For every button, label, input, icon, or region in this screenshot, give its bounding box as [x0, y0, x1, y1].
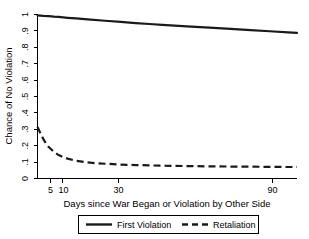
y-axis-title: Chance of No Violation	[3, 48, 14, 145]
y-tick-label: .9	[20, 27, 30, 35]
y-tick-label: 1	[20, 12, 30, 17]
y-tick-label: .6	[20, 76, 30, 84]
series-line-first-violation	[38, 15, 298, 33]
y-tick-label: 0	[20, 176, 30, 181]
y-tick-label: .1	[20, 158, 30, 166]
y-tick-label: .7	[20, 60, 30, 68]
chart-plot-area: 0 .1 .2 .3 .4 .5 .6 .7 .8 .9 1 Chance of…	[0, 0, 309, 239]
y-axis-tick-labels: 0 .1 .2 .3 .4 .5 .6 .7 .8 .9 1	[20, 12, 30, 181]
y-tick-label: .5	[20, 93, 30, 101]
y-tick-label: .2	[20, 142, 30, 150]
y-tick-label: .4	[20, 109, 30, 117]
x-tick-label: 30	[113, 185, 123, 195]
x-axis-ticks	[51, 179, 273, 184]
x-axis-tick-labels: 5 10 30 90	[48, 185, 278, 195]
x-axis-title: Days since War Began or Violation by Oth…	[64, 198, 271, 209]
y-tick-label: .3	[20, 126, 30, 134]
chart-legend: First Violation Retaliation	[79, 216, 259, 234]
series-line-retaliation	[38, 127, 298, 167]
x-tick-label: 10	[58, 185, 68, 195]
legend-label-first-violation: First Violation	[117, 220, 171, 230]
chart-figure: 0 .1 .2 .3 .4 .5 .6 .7 .8 .9 1 Chance of…	[0, 0, 309, 239]
x-tick-label: 90	[267, 185, 277, 195]
x-tick-label: 5	[48, 185, 53, 195]
legend-label-retaliation: Retaliation	[213, 220, 256, 230]
y-axis-ticks	[34, 15, 38, 179]
y-tick-label: .8	[20, 44, 30, 52]
